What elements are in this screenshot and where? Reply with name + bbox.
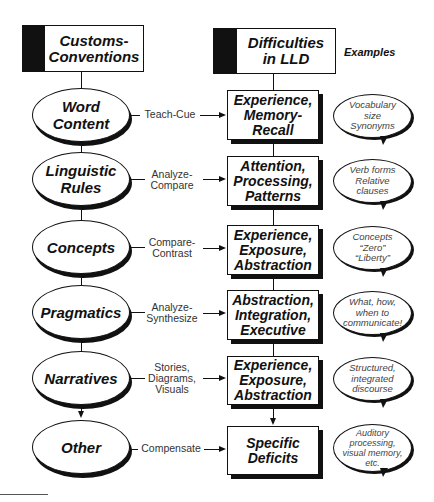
arrow-right-icon — [219, 446, 226, 452]
box-specific-deficits: Specific Deficits — [227, 426, 319, 475]
connector-line — [203, 378, 220, 379]
oval-word-content: Word Content — [32, 88, 130, 142]
header-left-label: Customs- Conventions — [45, 26, 143, 71]
box-experience-memory-recall: Experience, Memory- Recall — [227, 90, 319, 140]
oval-pragmatics: Pragmatics — [32, 285, 130, 339]
box-abstraction-integration-executive: Abstraction, Integration, Executive — [227, 290, 319, 340]
arrow-down-icon — [270, 418, 276, 425]
connector-line — [200, 115, 220, 116]
bubble-example: Verb forms Relative clauses — [333, 159, 412, 203]
bubble-example: What, how, when to communicate! — [333, 291, 412, 335]
connector-label: Analyze- Compare — [143, 169, 201, 191]
oval-linguistic-rules: Linguistic Rules — [32, 152, 130, 206]
footnote-rule — [0, 494, 48, 495]
header-right-label: Difficulties in LLD — [237, 29, 335, 73]
box-attention-processing-patterns: Attention, Processing, Patterns — [227, 156, 319, 206]
connector-label: Stories, Diagrams, Visuals — [143, 362, 201, 395]
box-experience-exposure-abstraction: Experience, Exposure, Abstraction — [227, 225, 319, 275]
header-black-block — [23, 26, 45, 71]
connector-label: Analyze- Synthesize — [143, 302, 201, 324]
header-difficulties-lld: Difficulties in LLD — [213, 28, 336, 74]
bubble-example: Concepts “Zero” “Liberty” — [333, 226, 412, 270]
arrow-down-icon — [78, 411, 84, 418]
oval-other: Other — [32, 420, 130, 474]
bubble-tail — [380, 468, 388, 477]
header-customs-conventions: Customs- Conventions — [22, 25, 144, 72]
connector-line — [203, 179, 220, 180]
arrow-right-icon — [219, 375, 226, 381]
connector-label: Compensate — [138, 443, 204, 454]
connector-line — [203, 248, 220, 249]
box-experience-exposure-abstraction-2: Experience, Exposure, Abstraction — [227, 356, 319, 405]
bubble-tail — [380, 268, 388, 277]
connector-label: Compare- Contrast — [143, 237, 201, 259]
bubble-tail — [380, 201, 388, 210]
connector-line — [204, 449, 220, 450]
bubble-tail — [380, 136, 388, 145]
arrow-right-icon — [219, 112, 226, 118]
arrow-right-icon — [219, 310, 226, 316]
arrow-right-icon — [219, 176, 226, 182]
header-black-block — [214, 29, 237, 73]
examples-label: Examples — [344, 46, 395, 58]
bubble-tail — [380, 399, 388, 408]
connector-line — [130, 449, 138, 450]
oval-narratives: Narratives — [32, 351, 130, 405]
bubble-tail — [380, 333, 388, 342]
oval-concepts: Concepts — [32, 220, 130, 274]
bubble-example: Vocabulary size Synonyms — [333, 94, 412, 138]
bubble-example: Auditory processing, visual memory, etc. — [333, 424, 412, 472]
connector-label: Teach-Cue — [140, 109, 200, 120]
arrow-right-icon — [219, 245, 226, 251]
connector-line — [203, 313, 220, 314]
connector-line — [130, 115, 140, 116]
bubble-example: Structured, integrated discourse — [333, 357, 412, 401]
